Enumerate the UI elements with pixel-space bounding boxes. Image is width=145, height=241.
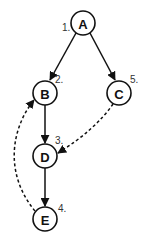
graph-diagram: A 1. B 2. C 5. D 3. E 4. (0, 0, 145, 241)
node-c: C 5. (107, 74, 138, 105)
edge-a-c (90, 33, 115, 80)
node-b-label: B (40, 87, 49, 102)
node-e-label: E (41, 213, 50, 228)
node-a-order: 1. (62, 22, 70, 33)
node-c-label: C (114, 87, 124, 102)
node-b: B 2. (33, 74, 63, 105)
node-a-label: A (78, 17, 88, 32)
edge-c-d (58, 104, 113, 153)
edge-a-b (50, 33, 76, 80)
node-b-order: 2. (55, 74, 63, 85)
node-d-label: D (40, 150, 49, 165)
node-a: A 1. (62, 11, 95, 35)
node-c-order: 5. (130, 74, 138, 85)
node-e: E 4. (33, 203, 66, 231)
node-d-order: 3. (55, 135, 63, 146)
edge-e-b (14, 100, 35, 211)
node-d: D 3. (33, 135, 63, 168)
node-e-order: 4. (58, 203, 66, 214)
